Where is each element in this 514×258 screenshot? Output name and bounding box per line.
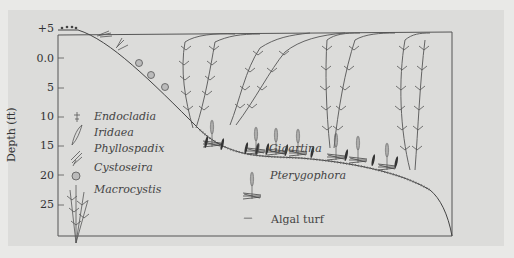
macrocystis-icon [67, 185, 89, 243]
endocladia-icon [74, 112, 80, 122]
legend-label-pterygophora: Pterygophora [270, 169, 346, 182]
endocladia-shore [61, 26, 78, 30]
legend-label-gigartina: Gigartina [269, 142, 322, 155]
legend-label-cystoseira: Cystoseira [94, 161, 153, 174]
tick-label-plus5: +5 [24, 22, 54, 35]
legend-label-iridaea: Iridaea [94, 126, 134, 139]
legend-label-endocladia: Endocladia [94, 110, 156, 123]
y-axis-title: Depth (ft) [5, 108, 18, 162]
tick-label-25: 25 [24, 198, 54, 211]
tick-label-0: 0.0 [24, 52, 54, 65]
phyllospadix-icon [71, 151, 82, 166]
tick-label-15: 15 [24, 139, 54, 152]
pterygophora-icon [243, 172, 261, 199]
cystoseira-icon [72, 172, 80, 180]
tick-label-5: 5 [24, 81, 54, 94]
tick-label-10: 10 [24, 110, 54, 123]
phyllospadix-slope [97, 31, 128, 50]
cystoseira-slope [136, 60, 169, 91]
legend-label-phyllospadix: Phyllospadix [94, 142, 164, 155]
legend-label-macrocystis: Macrocystis [94, 183, 161, 196]
y-axis-ticks [58, 58, 64, 205]
tick-label-20: 20 [24, 169, 54, 182]
depth-profile-diagram [0, 0, 514, 258]
legend-label-algal-turf: Algal turf [271, 213, 324, 226]
kelp-blades [179, 46, 429, 150]
algal-turf-icon [244, 218, 252, 220]
iridaea-icon [72, 125, 82, 145]
